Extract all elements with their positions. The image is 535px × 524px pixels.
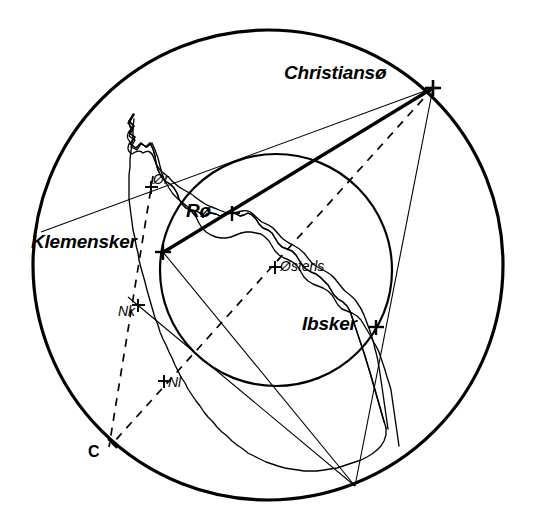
label-ibsker: Ibsker — [302, 314, 357, 333]
marker-klemensker — [155, 244, 171, 260]
label-christianso: Christiansø — [284, 63, 386, 82]
ray-christianso-west — [41, 88, 433, 232]
circles-group — [33, 30, 503, 500]
label-or: Ør — [153, 172, 169, 186]
label-nl: Nl — [168, 375, 181, 389]
label-c: C — [88, 444, 100, 460]
label-ro: Rø — [186, 201, 211, 220]
label-osterls: Østerls — [280, 259, 324, 273]
resection-diagram-figure: Christiansø Klemensker Rø Østerls Ibsker… — [0, 0, 535, 524]
ray-south-klemensker — [163, 252, 355, 486]
label-nk: Nk — [118, 304, 135, 318]
sight-lines-group — [41, 88, 433, 486]
bornholm-island-outline — [127, 117, 415, 458]
chord-klemensker-christianso — [162, 88, 433, 253]
island-coastline — [128, 116, 399, 446]
label-klemensker: Klemensker — [31, 232, 137, 251]
outer-circle — [33, 30, 503, 500]
coast-north-tip — [128, 116, 399, 446]
diagram-canvas — [0, 0, 535, 524]
chord-klemensker-christianso-group — [162, 88, 433, 253]
coastline-group — [80, 116, 417, 473]
